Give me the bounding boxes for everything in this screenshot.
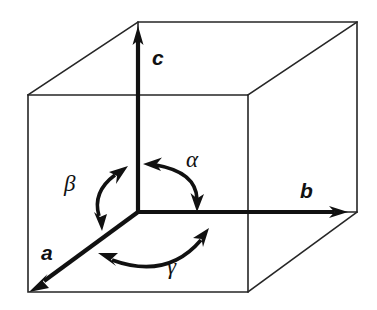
cube-connecting-edge-top-right xyxy=(248,22,357,95)
unit-cell-figure: c b a α β γ xyxy=(0,0,377,310)
axis-a-line xyxy=(44,212,138,281)
cube-connecting-edge-bottom-right xyxy=(248,212,357,292)
angle-beta-arc xyxy=(97,175,115,216)
axis-label-a: a xyxy=(41,242,53,263)
axis-label-b: b xyxy=(300,180,313,201)
axis-label-c: c xyxy=(152,47,164,68)
angle-label-gamma: γ xyxy=(167,255,176,278)
angle-beta-arrowhead-toward-c xyxy=(109,166,128,184)
cube-connecting-edge-top-left xyxy=(28,22,138,95)
angle-label-alpha: α xyxy=(186,148,198,171)
angle-label-beta: β xyxy=(64,172,75,195)
angle-gamma-arc xyxy=(112,240,201,267)
axis-a-arrowhead xyxy=(29,274,49,292)
